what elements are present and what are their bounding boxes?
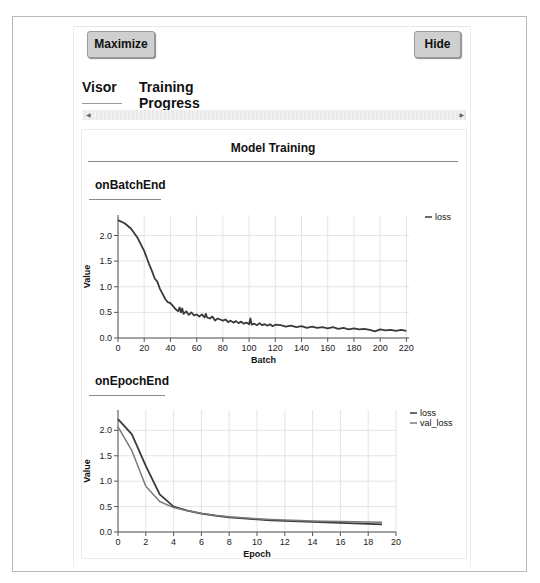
x-tick-label: 12 — [280, 537, 290, 547]
epoch-loss-chart: 024681012141618200.00.51.01.52.0EpochVal… — [80, 400, 460, 560]
y-tick-label: 2.0 — [99, 231, 112, 241]
section-title-batch: onBatchEnd — [89, 178, 161, 200]
x-tick-label: 20 — [139, 343, 149, 353]
x-tick-label: 100 — [242, 343, 257, 353]
hide-button[interactable]: Hide — [414, 31, 461, 58]
legend-label-loss: loss — [420, 408, 437, 418]
y-tick-label: 1.5 — [99, 256, 112, 266]
x-tick-label: 10 — [252, 537, 262, 547]
x-tick-label: 18 — [363, 537, 373, 547]
y-tick-label: 0.0 — [99, 333, 112, 343]
x-tick-label: 200 — [373, 343, 388, 353]
x-tick-label: 140 — [294, 343, 309, 353]
x-tick-label: 8 — [227, 537, 232, 547]
x-tick-label: 40 — [165, 343, 175, 353]
x-tick-label: 14 — [308, 537, 318, 547]
y-axis-title: Value — [82, 459, 92, 483]
series-line-loss — [118, 220, 406, 331]
x-axis-title: Batch — [251, 355, 276, 365]
x-tick-label: 20 — [391, 537, 401, 547]
y-tick-label: 1.0 — [99, 476, 112, 486]
y-tick-label: 0.0 — [99, 527, 112, 537]
scroll-right-icon[interactable]: ▶ — [459, 110, 464, 120]
x-tick-label: 220 — [399, 343, 414, 353]
x-tick-label: 160 — [320, 343, 335, 353]
legend-label-loss: loss — [435, 212, 452, 222]
x-tick-label: 60 — [192, 343, 202, 353]
x-tick-label: 0 — [115, 537, 120, 547]
panel-title: Model Training — [88, 141, 458, 162]
y-tick-label: 1.5 — [99, 451, 112, 461]
y-axis-title: Value — [82, 265, 92, 289]
x-tick-label: 2 — [143, 537, 148, 547]
section-title-epoch: onEpochEnd — [89, 374, 165, 396]
y-tick-label: 0.5 — [99, 502, 112, 512]
x-tick-label: 0 — [115, 343, 120, 353]
scroll-left-icon[interactable]: ◀ — [86, 110, 91, 120]
x-tick-label: 16 — [335, 537, 345, 547]
x-axis-title: Epoch — [243, 549, 271, 559]
series-line-val_loss — [118, 427, 382, 523]
x-tick-label: 120 — [268, 343, 283, 353]
y-tick-label: 2.0 — [99, 425, 112, 435]
tab-visor[interactable]: Visor — [82, 79, 122, 104]
y-tick-label: 0.5 — [99, 307, 112, 317]
x-tick-label: 80 — [218, 343, 228, 353]
batch-loss-chart: 0204060801001201401601802002200.00.51.01… — [80, 205, 460, 365]
legend-label-val_loss: val_loss — [420, 418, 453, 428]
x-tick-label: 180 — [346, 343, 361, 353]
x-tick-label: 4 — [171, 537, 176, 547]
tab-scrollbar[interactable]: ◀ ▶ — [82, 110, 466, 120]
maximize-button[interactable]: Maximize — [87, 31, 155, 58]
x-tick-label: 6 — [199, 537, 204, 547]
series-line-loss — [118, 419, 382, 524]
y-tick-label: 1.0 — [99, 282, 112, 292]
